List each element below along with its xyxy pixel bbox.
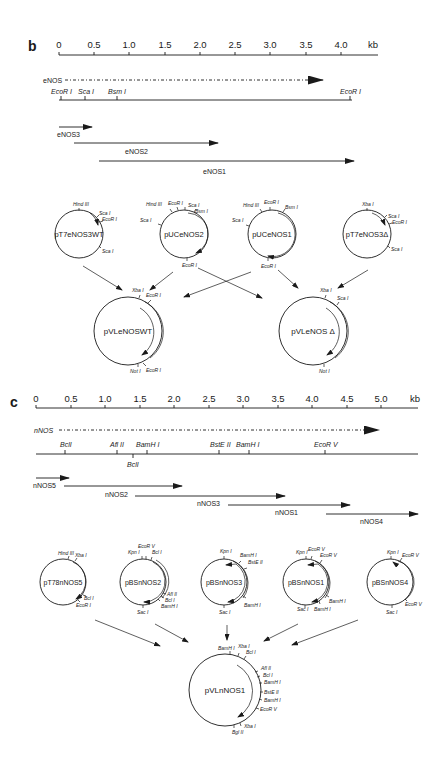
clone-label: nNOS4 [360,518,383,525]
site-label: Sca I [102,248,114,254]
nnos-clone-fragments: nNOS5 nNOS2 nNOS3 nNOS1 nNOS4 [33,478,418,525]
scale-tick: 0.5 [87,39,100,50]
site-label: BstE II [248,559,263,565]
panel-c-label: c [10,394,18,410]
site-label: BclI [127,461,139,468]
plasmid-name: pUCeNOS1 [252,230,292,239]
site-label: Bcl I [246,649,256,655]
plasmid-pbsnnos4: pBSnNOS4 Kpn I EcoR V EcoR V Sac I [367,549,423,615]
plasmid-pt7enos3wt: pT7eNOS3WT Hind III Sca I EcoR I Sca I [54,201,117,258]
site-label: EcoR I [261,263,277,269]
clone-label: nNOS5 [33,482,56,489]
site-label: Bcl I [152,549,162,555]
panel-b-scale-bar: 0 0.5 1.0 1.5 2.0 2.5 3.0 3.5 4.0 kb [56,39,378,55]
site-label: Not I [130,368,141,374]
scale-tick: 4.0 [334,39,347,50]
clone-label: eNOS3 [57,131,80,138]
cloning-diagram: b 0 0.5 1.0 1.5 2.0 2.5 3.0 3.5 4.0 kb e… [0,0,443,764]
plasmid-name: pT7eNOS3Δ [346,230,389,239]
site-label: Bsm I [195,208,208,214]
site-label: BamH I [314,606,331,612]
site-label: BamH I [244,602,261,608]
scale-tick: 2.0 [193,39,206,50]
panel-b-label: b [28,38,37,54]
site-label: Xba I [319,287,332,293]
clone-label: nNOS2 [105,491,128,498]
scale-tick: 2.0 [167,393,180,404]
site-label: EcoR I [340,88,361,95]
site-label: Sca I [391,246,403,252]
site-label: Sca I [337,295,349,301]
scale-tick: 0 [56,39,61,50]
scale-tick: 0.5 [64,393,77,404]
plasmid-pbsnnos2: pBSnNOS2 EcoR V Kpn I Bcl I Afl II Bcl I… [120,543,178,615]
scale-tick: 1.0 [122,39,135,50]
site-label: Xba I [243,723,256,729]
site-label: Sca I [232,217,244,223]
site-label: Xba I [361,201,374,207]
gene-label-enos: eNOS [43,77,62,84]
scale-tick: 1.0 [98,393,111,404]
site-label: Kpn I [220,548,232,554]
plasmid-name: pT7eNOS3WT [54,230,104,239]
plasmid-pvlenoswt: pVLeNOSWT Xba I EcoR I Not I EcoR I [94,287,163,374]
site-label: BamH I [329,598,346,604]
plasmid-pt7enos3-delta: pT7eNOS3Δ Xba I Sca I EcoR I Sca I [343,201,408,258]
plasmid-pvlnnos1: pVLnNOS1 BamH I Xba I Bcl I Afl II Bcl I… [189,643,281,735]
site-label: Kpn I [296,549,308,555]
scale-tick: 3.0 [236,393,249,404]
site-label: BamH I [218,645,235,651]
enos-clone-fragments: eNOS3 eNOS2 eNOS1 [57,127,354,175]
panel-b-ligation-arrows [83,266,368,298]
site-label: EcoR I [264,199,280,205]
site-label: Bsm I [285,204,298,210]
plasmid-pvlenos-delta: pVLeNOS Δ Xba I Sca I Not I [279,287,349,374]
panel-c: c 0 0.5 1.0 1.5 2.0 2.5 3.0 3.5 4.0 4.5 … [10,393,423,735]
site-label: BamH I [236,441,259,448]
plasmid-name: pBSnNOS4 [372,579,408,587]
site-label: Sca I [78,88,94,95]
site-label: EcoR I [146,292,162,298]
plasmid-name: pBSnNOS2 [125,579,161,587]
site-label: Sac I [219,609,231,615]
site-label: BstE II [264,689,279,695]
plasmid-name: pUCeNOS2 [164,230,204,239]
site-label: EcoR V [402,552,420,558]
plasmid-name: pBSnNOS1 [288,579,324,587]
scale-tick: 5.0 [374,393,387,404]
site-label: Xba I [131,287,144,293]
site-label: EcoR V [314,441,339,448]
site-label: EcoR I [51,88,72,95]
plasmid-name: pBSnNOS3 [206,579,242,587]
scale-tick: 3.0 [263,39,276,50]
site-label: EcoR I [392,219,408,225]
site-label: BstE II [210,441,231,448]
plasmid-pbsnnos1: pBSnNOS1 Kpn I EcoR V EcoR V BamH I BamH… [283,546,346,612]
site-label: Hind III [243,202,259,208]
site-label: Hind III [146,201,162,207]
scale-tick: 4.0 [305,393,318,404]
scale-tick: 3.5 [271,393,284,404]
site-label: BamH I [264,679,281,685]
site-label: BclI [60,441,72,448]
scale-tick: 1.5 [133,393,146,404]
clone-label: eNOS1 [203,168,226,175]
site-label: Bsm I [108,88,126,95]
site-label: Hind III [58,550,74,556]
site-label: Kpn I [387,549,399,555]
plasmid-pucenos2: pUCeNOS2 Hind III EcoR I Sca I Bsm I Sca… [140,200,208,268]
panel-c-ligation-arrows [95,620,358,646]
site-label: Bcl I [263,672,273,678]
nnos-restriction-map: BclI Afl II BclI BamH I BstE II BamH I E… [36,441,418,468]
site-label: Afl II [260,665,272,671]
site-label: Afl II [109,441,124,448]
enos-restriction-map: EcoR I Sca I Bsm I EcoR I [51,88,361,100]
scale-unit: kb [368,39,378,50]
scale-tick: 3.5 [299,39,312,50]
site-label: EcoR I [102,216,118,222]
site-label: Sac I [386,609,398,615]
site-label: EcoR V [320,552,338,558]
scale-tick: 0 [33,393,38,404]
site-label: Bcl I [84,595,94,601]
site-label: EcoR I [168,200,184,206]
